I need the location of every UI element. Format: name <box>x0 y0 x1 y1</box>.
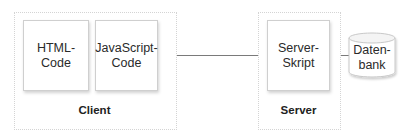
database-label: Daten- bank <box>348 43 396 73</box>
html-code-box: HTML- Code <box>23 20 89 91</box>
javascript-code-box: JavaScript- Code <box>95 20 158 91</box>
client-label: Client <box>14 104 175 116</box>
server-label: Server <box>258 104 339 116</box>
server-script-box: Server- Skript <box>267 20 330 91</box>
